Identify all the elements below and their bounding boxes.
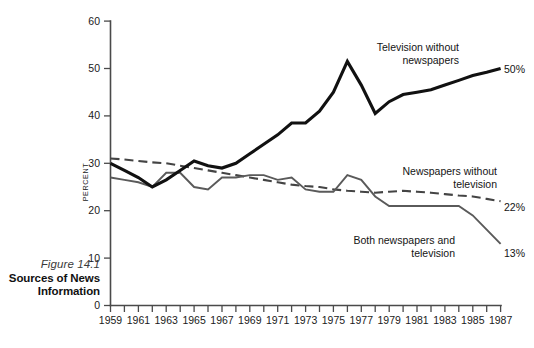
endlabel-newspapers-22: 22% <box>504 201 525 213</box>
x-tick-label-1967: 1967 <box>210 314 234 326</box>
endlabel-both-13: 13% <box>504 247 525 259</box>
x-axis-tick-labels: 1959 1961 1963 1965 1967 1969 1971 1973 … <box>99 314 513 326</box>
x-tick-label-1983: 1983 <box>433 314 457 326</box>
x-tick-label-1961: 1961 <box>127 314 151 326</box>
x-tick-label-1963: 1963 <box>155 314 179 326</box>
x-tick-label-1981: 1981 <box>405 314 429 326</box>
annotation-television: Television without newspapers 50% <box>377 41 525 75</box>
x-tick-label-1973: 1973 <box>294 314 318 326</box>
figure-title-line-1: Sources of News <box>0 272 100 286</box>
annotation-television-line1: Television without <box>377 41 459 53</box>
annotation-newspapers-line1: Newspapers without <box>402 165 497 177</box>
x-tick-label-1969: 1969 <box>238 314 262 326</box>
figure-container: 0 10 20 30 40 50 60 PERCENT <box>0 0 534 348</box>
endlabel-television-50: 50% <box>504 63 525 75</box>
annotation-both: Both newspapers and television 13% <box>353 234 525 259</box>
y-tick-label-50: 50 <box>88 62 100 74</box>
x-tick-label-1987: 1987 <box>489 314 513 326</box>
x-axis-ticks <box>111 306 501 313</box>
y-tick-label-40: 40 <box>88 109 100 121</box>
figure-caption: Figure 14.1 Sources of News Information <box>0 258 100 299</box>
y-axis-title: PERCENT <box>81 163 90 202</box>
x-tick-label-1965: 1965 <box>182 314 206 326</box>
x-tick-label-1979: 1979 <box>378 314 402 326</box>
x-tick-label-1977: 1977 <box>350 314 374 326</box>
figure-number: Figure 14.1 <box>0 258 100 272</box>
annotation-newspapers-line2: television <box>453 178 497 190</box>
x-tick-label-1975: 1975 <box>322 314 346 326</box>
annotation-both-line2: television <box>411 247 455 259</box>
y-tick-label-30: 30 <box>88 157 100 169</box>
x-tick-label-1985: 1985 <box>461 314 485 326</box>
y-tick-label-60: 60 <box>88 15 100 27</box>
annotation-both-line1: Both newspapers and <box>353 234 455 246</box>
x-tick-label-1959: 1959 <box>99 314 123 326</box>
figure-title-line-2: Information <box>0 285 100 299</box>
y-tick-label-0: 0 <box>94 299 100 311</box>
y-tick-label-20: 20 <box>88 204 100 216</box>
x-axis-group: 1959 1961 1963 1965 1967 1969 1971 1973 … <box>99 306 513 327</box>
series-group <box>111 61 501 243</box>
annotation-television-line2: newspapers <box>402 54 459 66</box>
x-tick-label-1971: 1971 <box>266 314 290 326</box>
